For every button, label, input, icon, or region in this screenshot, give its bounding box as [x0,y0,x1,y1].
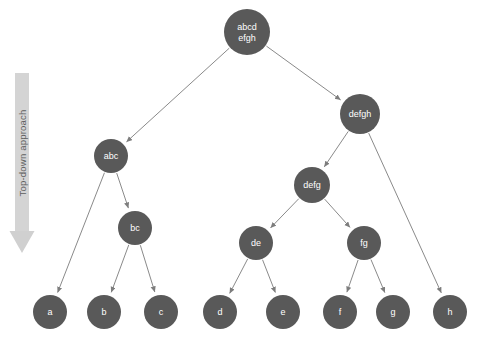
tree-node-g[interactable]: g [376,295,410,329]
node-circle-root[interactable] [224,9,270,55]
edge-bc-to-c [140,245,154,292]
tree-node-c[interactable]: c [144,295,178,329]
edge-root-to-abc [127,48,230,142]
edge-defg-to-de [271,199,299,228]
edge-defgh-to-defg [324,131,348,166]
tree-node-defg[interactable]: defg [294,167,330,203]
edge-root-to-defgh [266,46,340,100]
tree-node-de[interactable]: de [239,226,273,260]
node-circle-f[interactable] [323,295,357,329]
tree-node-b[interactable]: b [87,295,121,329]
diagram-canvas: Top-down approach abcdefghabcdefghbcdefg… [0,0,483,350]
edge-defg-to-fg [325,199,350,227]
tree-diagram: Top-down approach abcdefghabcdefghbcdefg… [0,0,483,350]
arrow-head [10,231,35,253]
node-circle-h[interactable] [433,295,467,329]
node-circle-defg[interactable] [294,167,330,203]
tree-node-defgh[interactable]: defgh [340,94,380,134]
edge-abc-to-bc [117,173,129,208]
tree-node-bc[interactable]: bc [118,211,152,245]
node-circle-abc[interactable] [94,139,128,173]
tree-node-fg[interactable]: fg [347,226,381,260]
node-circle-bc[interactable] [118,211,152,245]
edge-de-to-d [230,259,248,293]
edge-abc-to-a [58,173,105,293]
tree-node-f[interactable]: f [323,295,357,329]
edge-fg-to-f [347,260,358,292]
top-down-approach-arrow: Top-down approach [10,73,35,253]
tree-node-d[interactable]: d [203,295,237,329]
tree-node-a[interactable]: a [33,295,67,329]
edge-defgh-to-h [369,133,442,293]
node-circle-b[interactable] [87,295,121,329]
tree-node-root[interactable]: abcdefgh [224,9,270,55]
nodes-layer: abcdefghabcdefghbcdefgdefgabcdefgh [33,9,467,329]
node-circle-d[interactable] [203,295,237,329]
edge-de-to-e [263,260,276,293]
node-circle-fg[interactable] [347,226,381,260]
edge-fg-to-g [371,260,385,293]
node-circle-a[interactable] [33,295,67,329]
node-circle-e[interactable] [266,295,300,329]
tree-node-abc[interactable]: abc [94,139,128,173]
node-circle-de[interactable] [239,226,273,260]
arrow-label: Top-down approach [17,110,28,197]
edge-bc-to-b [111,245,129,292]
tree-node-e[interactable]: e [266,295,300,329]
node-circle-c[interactable] [144,295,178,329]
node-circle-g[interactable] [376,295,410,329]
node-circle-defgh[interactable] [340,94,380,134]
tree-node-h[interactable]: h [433,295,467,329]
